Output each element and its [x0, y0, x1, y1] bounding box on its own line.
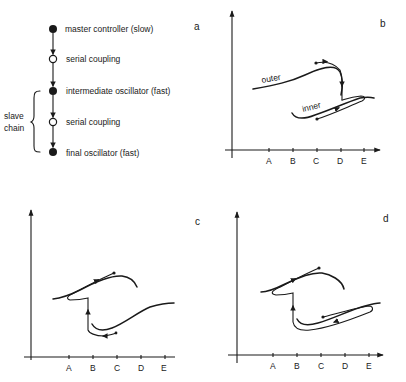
tick-label-b: B: [290, 156, 296, 166]
filled-node-icon: [49, 148, 57, 156]
panel-c-label: c: [195, 216, 200, 227]
tick-label-b: B: [294, 361, 300, 371]
tick-label-b: B: [90, 363, 96, 373]
tick-label-a: A: [266, 156, 272, 166]
trajectory-dot-icon: [315, 117, 318, 120]
tick-label-a: A: [66, 363, 72, 373]
open-node-icon: [49, 55, 56, 62]
trajectory-dot-icon: [321, 315, 324, 318]
filled-node-icon: [49, 25, 57, 33]
trajectory: [68, 273, 116, 336]
upper-curve: [53, 276, 137, 299]
trajectory-end-dot-icon: [317, 266, 320, 269]
tick-label-e: E: [161, 363, 167, 373]
node-label-intermediate-oscillator: intermediate oscillator (fast): [66, 86, 171, 96]
panel-b-label: b: [380, 18, 386, 29]
panel-d-label: d: [383, 213, 389, 224]
panel-b-plot: b A B C D E outer inner: [225, 11, 386, 166]
panel-a-chain-diagram: a master controller (slow) serial coupli…: [4, 21, 200, 158]
trajectory-end-dot-icon: [112, 271, 115, 274]
panel-d-plot: d A B C D E: [228, 212, 389, 371]
tick-label-d: D: [337, 156, 343, 166]
filled-node-icon: [49, 87, 57, 95]
tick-label-c: C: [313, 156, 319, 166]
direction-arrow-icon: [336, 108, 339, 109]
panel-a-label: a: [194, 21, 200, 32]
figure-canvas: a master controller (slow) serial coupli…: [0, 0, 406, 382]
node-label-final-oscillator: final oscillator (fast): [66, 148, 139, 158]
outer-curve-label: outer: [261, 72, 282, 85]
tick-label-c: C: [114, 363, 120, 373]
tick-label-e: E: [361, 156, 367, 166]
inner-curve-label: inner: [301, 100, 322, 114]
trajectory-start-dot-icon: [314, 61, 317, 64]
tick-label-e: E: [366, 361, 372, 371]
tick-label-c: C: [318, 361, 324, 371]
lower-curve: [92, 303, 174, 330]
tick-label-d: D: [342, 361, 348, 371]
slave-chain-brace-icon: [31, 91, 40, 152]
tick-label-d: D: [138, 363, 144, 373]
node-label-master-controller: master controller (slow): [65, 24, 153, 34]
panel-c-plot: c A B C D E: [24, 210, 200, 373]
direction-arrow-icon: [334, 321, 337, 322]
slave-chain-label-line2: chain: [4, 123, 25, 133]
trajectory-dot-icon: [115, 332, 118, 335]
node-label-serial-coupling-1: serial coupling: [66, 54, 121, 64]
open-node-icon: [49, 118, 56, 125]
node-label-serial-coupling-2: serial coupling: [66, 117, 121, 127]
tick-label-a: A: [270, 361, 276, 371]
slave-chain-label-line1: slave: [4, 111, 24, 121]
